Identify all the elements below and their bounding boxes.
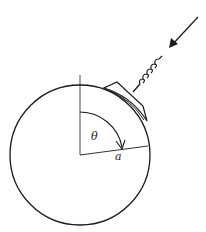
angle-label: θ: [91, 130, 98, 143]
radius-label: a: [115, 150, 122, 163]
spring-stem: [133, 84, 140, 92]
diagram-canvas: θ a: [0, 0, 206, 232]
spring-coil: [139, 56, 162, 84]
radius-line: [80, 146, 148, 155]
angle-arc: [80, 112, 122, 147]
